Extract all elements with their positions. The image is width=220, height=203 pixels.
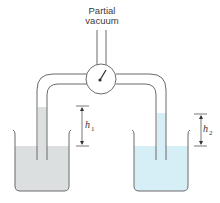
h2-label: h — [203, 123, 208, 134]
right-beaker — [132, 113, 190, 191]
h2-dimension: h 2 — [194, 114, 213, 146]
h2-subscript: 2 — [209, 129, 213, 137]
h1-label: h — [85, 119, 90, 130]
title-line-2: vacuum — [85, 15, 118, 26]
h1-dimension: h 1 — [76, 106, 95, 146]
pressure-gauge-icon — [86, 64, 116, 94]
h1-subscript: 1 — [91, 125, 95, 133]
vacuum-pipe — [97, 30, 106, 65]
vacuum-apparatus-diagram: Partial vacuum h 1 — [0, 0, 220, 203]
left-beaker — [13, 107, 71, 191]
